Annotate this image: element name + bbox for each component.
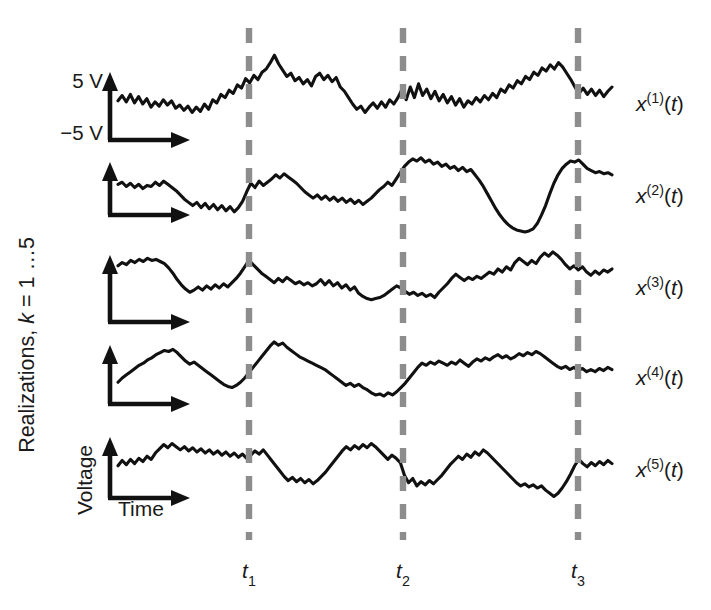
time-axis-arrowhead-icon — [171, 396, 190, 412]
panel-axes-3 — [102, 255, 190, 330]
ensemble-figure-canvas: Realizations, k = 1 …5 5 V −5 V Voltage … — [0, 0, 711, 610]
trace-label-layer: x(1)(t)x(2)(t)x(3)(t)x(4)(t)x(5)(t) — [635, 90, 684, 481]
time-axis-arrowhead-icon — [171, 314, 190, 330]
trace-label-x5: x(5)(t) — [635, 456, 684, 481]
waveform-trace-3 — [118, 252, 612, 300]
time-tick-label-t2: t2 — [396, 559, 410, 589]
trace-label-x1: x(1)(t) — [635, 90, 684, 115]
time-tick-label-t1: t1 — [242, 559, 256, 589]
trace-label-x2: x(2)(t) — [635, 182, 684, 207]
trace-label-x4: x(4)(t) — [635, 364, 684, 389]
voltage-axis-label: Voltage — [73, 445, 96, 515]
waveform-trace-2 — [118, 158, 612, 232]
trace-label-x3: x(3)(t) — [635, 274, 684, 299]
time-axis-arrowhead-icon — [171, 207, 190, 223]
voltage-axis-arrowhead-icon — [102, 437, 118, 456]
voltage-axis-arrowhead-icon — [102, 162, 118, 181]
waveform-layer — [118, 55, 612, 496]
scale-top-label: 5 V — [72, 69, 103, 92]
time-axis-arrowhead-icon — [171, 132, 190, 148]
waveform-trace-5 — [118, 444, 612, 497]
time-axis-label: Time — [118, 497, 164, 520]
ensemble-axis-label: Realizations, k = 1 …5 — [15, 237, 39, 453]
voltage-axis-arrowhead-icon — [102, 255, 118, 274]
time-marker-layer — [249, 28, 578, 540]
voltage-axis-arrowhead-icon — [102, 345, 118, 364]
waveform-trace-1 — [118, 55, 612, 112]
panel-axes-4 — [102, 345, 190, 412]
scale-bottom-label: −5 V — [60, 121, 103, 144]
time-tick-label-layer: t1t2t3 — [242, 559, 585, 589]
time-tick-label-t3: t3 — [571, 559, 585, 589]
voltage-axis-arrowhead-icon — [102, 72, 118, 91]
panel-axes-layer — [102, 72, 190, 506]
waveform-trace-4 — [118, 342, 612, 396]
figure-root: Realizations, k = 1 …5 5 V −5 V Voltage … — [0, 0, 711, 610]
panel-axes-1 — [102, 72, 190, 148]
time-axis-arrowhead-icon — [171, 490, 190, 506]
